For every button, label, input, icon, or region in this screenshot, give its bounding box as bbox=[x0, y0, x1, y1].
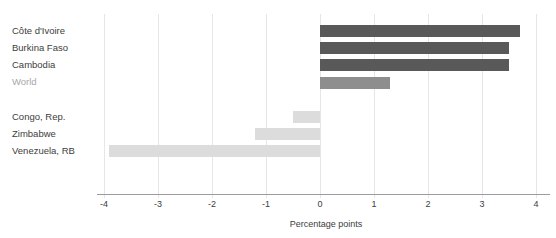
tick-label: -3 bbox=[144, 199, 172, 209]
gridline bbox=[212, 14, 213, 198]
gridline bbox=[158, 14, 159, 198]
x-axis-title: Percentage points bbox=[290, 219, 363, 229]
bar bbox=[109, 145, 320, 157]
tick-label: -1 bbox=[252, 199, 280, 209]
category-label: Venezuela, RB bbox=[12, 145, 75, 157]
bar bbox=[320, 42, 509, 54]
tick-label: -4 bbox=[90, 199, 118, 209]
category-label: World bbox=[12, 76, 37, 88]
category-label: Zimbabwe bbox=[12, 128, 56, 140]
bar bbox=[320, 25, 520, 37]
tick-label: 2 bbox=[414, 199, 442, 209]
bar-chart: Côte d'IvoireBurkina FasoCambodiaWorldCo… bbox=[0, 0, 556, 238]
bar bbox=[255, 128, 320, 140]
tick-label: -2 bbox=[198, 199, 226, 209]
tick-label: 4 bbox=[522, 199, 550, 209]
x-axis-line bbox=[97, 194, 550, 195]
bar bbox=[320, 59, 509, 71]
category-label: Côte d'Ivoire bbox=[12, 25, 65, 37]
category-label: Congo, Rep. bbox=[12, 111, 65, 123]
bar bbox=[293, 111, 320, 123]
bar bbox=[320, 77, 390, 89]
tick-label: 0 bbox=[306, 199, 334, 209]
category-label: Cambodia bbox=[12, 59, 55, 71]
gridline bbox=[536, 14, 537, 198]
category-label: Burkina Faso bbox=[12, 42, 68, 54]
tick-label: 3 bbox=[468, 199, 496, 209]
gridline bbox=[266, 14, 267, 198]
tick-label: 1 bbox=[360, 199, 388, 209]
gridline bbox=[104, 14, 105, 198]
